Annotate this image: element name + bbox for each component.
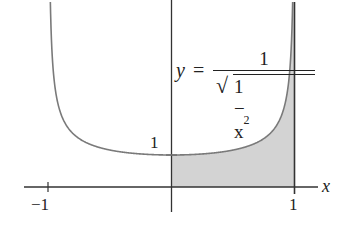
y-tick-label-one: 1 [150,134,159,151]
sqrt-icon: √ [216,73,228,99]
exponent: 2 [244,113,250,127]
x-axis-label: x [322,177,330,195]
formula-numerator: 1 [254,48,274,70]
fraction-bar [213,70,315,71]
formula-equals: = [193,59,204,82]
plot-area [0,0,357,238]
sqrt-vinculum [233,74,315,75]
x-tick-label-one: 1 [289,196,298,213]
shaded-area-under-curve [172,2,295,187]
formula-lhs: y [176,59,185,82]
x-tick-label-minus-one: −1 [31,196,49,213]
radicand: 1 − x [234,76,245,142]
